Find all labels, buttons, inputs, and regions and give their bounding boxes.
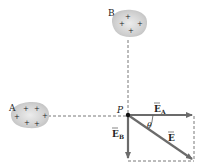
charge-a: A + + + + + + [8, 102, 49, 128]
electric-field-diagram: B + + + + A + + + + + + θ P E A E B E [0, 0, 204, 168]
plus-sign: + [34, 120, 40, 128]
vector-e-label: E [168, 132, 175, 143]
plus-sign: + [14, 113, 20, 121]
svg-text:E: E [168, 133, 175, 143]
plus-sign: + [42, 112, 48, 120]
vector-e-b-label: E B [112, 128, 124, 140]
vector-e [128, 115, 192, 159]
plus-sign: + [125, 13, 131, 21]
svg-text:E: E [154, 104, 161, 114]
point-p-label: P [116, 105, 124, 115]
vector-e-a-label: E A [154, 103, 166, 115]
charge-b-label: B [108, 8, 115, 18]
vectors [128, 115, 192, 159]
plus-sign: + [24, 119, 30, 127]
charge-b: B + + + + [108, 8, 147, 37]
svg-text:B: B [119, 133, 124, 140]
plus-sign: + [119, 20, 125, 28]
plus-sign: + [23, 105, 29, 113]
plus-sign: + [128, 27, 134, 35]
point-p-dot [126, 113, 130, 117]
svg-text:E: E [112, 129, 119, 139]
plus-sign: + [137, 20, 143, 28]
plus-sign: + [34, 105, 40, 113]
angle-label: θ [147, 121, 152, 130]
svg-text:A: A [160, 108, 166, 115]
charge-a-label: A [8, 103, 16, 113]
